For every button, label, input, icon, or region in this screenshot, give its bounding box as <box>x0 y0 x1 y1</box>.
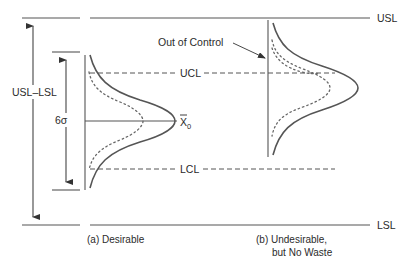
undesirable-process-curve <box>273 23 358 155</box>
xbar-symbol: X <box>180 116 187 128</box>
ucl-label: UCL <box>180 67 201 79</box>
six-sigma-label: 6σ <box>55 114 68 126</box>
control-chart-diagram: USL LSL USL–LSL 6σ X 0 UCL LCL Out of Co… <box>0 0 411 266</box>
lsl-label: LSL <box>377 219 396 231</box>
lcl-label: LCL <box>180 163 199 175</box>
caption-a: (a) Desirable <box>87 234 145 245</box>
out-of-control-pointer <box>233 43 265 58</box>
caption-b-line1: (b) Undesirable, <box>256 234 327 245</box>
undesirable-shifted-curve <box>272 48 320 74</box>
centerline-label: X 0 <box>180 115 191 131</box>
undesirable-control-curve <box>272 40 330 136</box>
out-of-control-label: Out of Control <box>158 36 223 48</box>
caption-b-line2: but No Waste <box>272 247 333 258</box>
xbar-subscript: 0 <box>187 122 191 131</box>
spec-width-label: USL–LSL <box>12 86 57 98</box>
usl-label: USL <box>377 12 398 24</box>
